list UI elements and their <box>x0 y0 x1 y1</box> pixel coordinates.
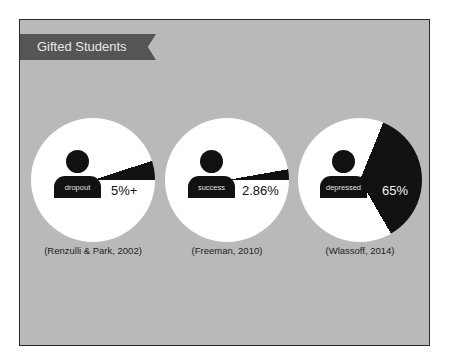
pie-source-depressed: (Wlassoff, 2014) <box>290 245 430 256</box>
pie-value-depressed: 65% <box>382 183 408 198</box>
slide-title: Gifted Students <box>37 39 127 54</box>
pie-value-dropout: 5%+ <box>111 183 137 198</box>
pie-label-dropout: dropout <box>54 176 101 198</box>
pie-source-success: (Freeman, 2010) <box>157 245 297 256</box>
pie-value-success: 2.86% <box>242 183 279 198</box>
title-banner: Gifted Students <box>20 34 156 60</box>
slide-frame: Gifted Students dropout 5%+ (Renzulli & … <box>19 19 430 346</box>
pie-source-dropout: (Renzulli & Park, 2002) <box>23 245 163 256</box>
pie-label-success: success <box>188 176 235 198</box>
pie-label-depressed: depressed <box>320 176 367 198</box>
